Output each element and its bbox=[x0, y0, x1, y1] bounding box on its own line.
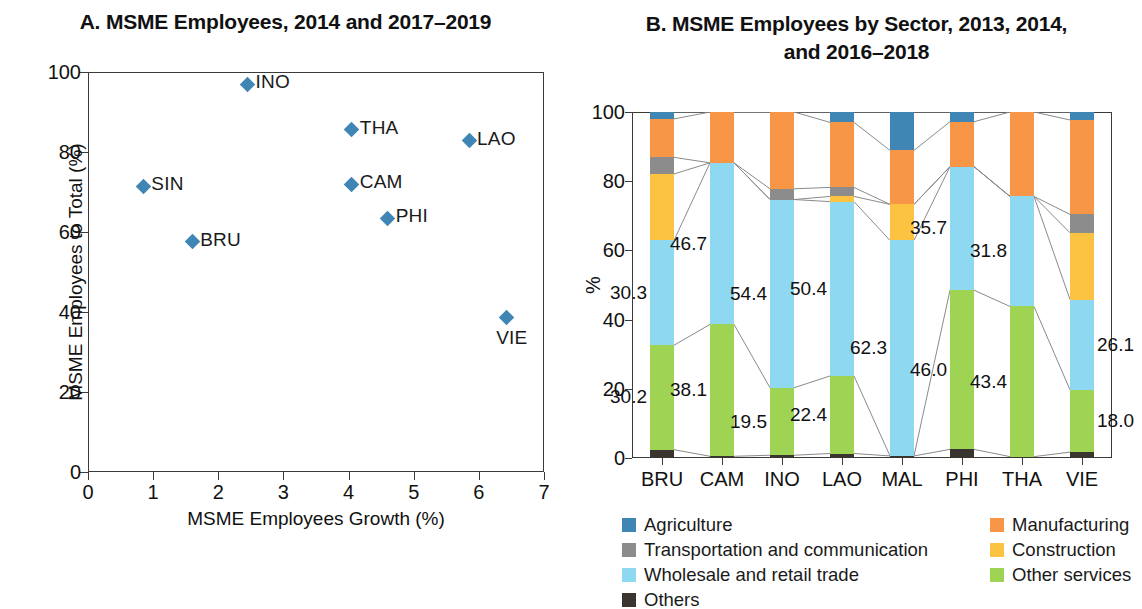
bar-data-label: 38.1 bbox=[670, 379, 707, 401]
bar-column-mal[interactable]: 62.3 bbox=[890, 112, 914, 458]
scatter-point-label: PHI bbox=[396, 205, 428, 227]
bar-x-tick-mark bbox=[1082, 458, 1083, 465]
bar-segment-bru-wholesale-and-retail-trade[interactable] bbox=[650, 240, 674, 345]
panel-b-title: B. MSME Employees by Sector, 2013, 2014,… bbox=[591, 10, 1122, 66]
bar-segment-ino-others[interactable] bbox=[770, 455, 794, 458]
bar-data-label: 46.0 bbox=[910, 359, 947, 381]
scatter-point-label: THA bbox=[360, 117, 399, 139]
bar-column-phi[interactable]: 46.035.7 bbox=[950, 112, 974, 458]
bar-column-lao[interactable]: 22.450.4 bbox=[830, 112, 854, 458]
bar-data-label: 43.4 bbox=[970, 371, 1007, 393]
bar-segment-mal-wholesale-and-retail-trade[interactable] bbox=[890, 240, 914, 456]
bar-segment-phi-others[interactable] bbox=[950, 449, 974, 458]
scatter-x-tick-label: 4 bbox=[343, 481, 354, 504]
scatter-point-label: SIN bbox=[151, 173, 183, 195]
legend-swatch-transportation bbox=[622, 543, 636, 557]
bar-data-label: 50.4 bbox=[790, 278, 827, 300]
scatter-x-tick-mark bbox=[414, 472, 415, 480]
bar-segment-cam-other-services[interactable] bbox=[710, 324, 734, 456]
legend-swatch-wholesale bbox=[622, 568, 636, 582]
bar-segment-phi-manufacturing[interactable] bbox=[950, 122, 974, 167]
bar-data-label: 30.3 bbox=[610, 282, 647, 304]
bar-segment-ino-manufacturing[interactable] bbox=[770, 112, 794, 189]
legend-item-transportation-and-communication[interactable]: Transportation and communication bbox=[622, 537, 928, 562]
bar-x-tick-label-mal: MAL bbox=[881, 468, 922, 491]
bar-column-vie[interactable]: 18.026.1 bbox=[1070, 112, 1094, 458]
legend-item-others[interactable]: Others bbox=[622, 587, 928, 609]
panel-b-title-line-2: and 2016–2018 bbox=[591, 38, 1122, 66]
scatter-y-axis-label: MSME Employees to Total (%) bbox=[65, 143, 87, 400]
bar-x-tick-label-phi: PHI bbox=[945, 468, 978, 491]
legend-item-construction[interactable]: Construction bbox=[990, 537, 1131, 562]
bar-segment-phi-agriculture[interactable] bbox=[950, 112, 974, 122]
bar-segment-bru-others[interactable] bbox=[650, 450, 674, 458]
legend-item-wholesale-and-retail-trade[interactable]: Wholesale and retail trade bbox=[622, 562, 928, 587]
legend-item-label: Wholesale and retail trade bbox=[644, 564, 859, 586]
bar-data-label: 22.4 bbox=[790, 404, 827, 426]
legend-item-label: Agriculture bbox=[644, 514, 732, 536]
bar-segment-vie-agriculture[interactable] bbox=[1070, 112, 1094, 120]
bar-segment-lao-others[interactable] bbox=[830, 454, 854, 458]
bar-x-tick-mark bbox=[782, 458, 783, 465]
scatter-x-tick-label: 0 bbox=[82, 481, 93, 504]
bar-segment-tha-others[interactable] bbox=[1010, 457, 1034, 458]
bar-column-bru[interactable]: 30.230.3 bbox=[650, 112, 674, 458]
bar-x-tick-label-lao: LAO bbox=[822, 468, 862, 491]
bar-segment-cam-others[interactable] bbox=[710, 456, 734, 458]
bar-segment-tha-wholesale-and-retail-trade[interactable] bbox=[1010, 196, 1034, 306]
bar-data-label: 35.7 bbox=[910, 217, 947, 239]
scatter-y-tick-label: 100 bbox=[48, 61, 81, 84]
bar-segment-bru-manufacturing[interactable] bbox=[650, 119, 674, 157]
bar-segment-mal-others[interactable] bbox=[890, 456, 914, 458]
scatter-x-tick-mark bbox=[88, 472, 89, 480]
bar-segment-bru-agriculture[interactable] bbox=[650, 112, 674, 119]
bar-y-tick-mark bbox=[625, 458, 632, 459]
bar-segment-vie-construction[interactable] bbox=[1070, 233, 1094, 300]
bar-segment-tha-manufacturing[interactable] bbox=[1010, 112, 1034, 196]
legend-item-agriculture[interactable]: Agriculture bbox=[622, 512, 928, 537]
scatter-point-label: INO bbox=[256, 71, 290, 93]
legend: AgricultureTransportation and communicat… bbox=[598, 512, 1142, 607]
panel-a-title: A. MSME Employees, 2014 and 2017–2019 bbox=[0, 10, 571, 34]
scatter-x-tick-label: 7 bbox=[538, 481, 549, 504]
bar-segment-vie-wholesale-and-retail-trade[interactable] bbox=[1070, 300, 1094, 390]
legend-swatch-construction bbox=[990, 543, 1004, 557]
bar-segment-vie-manufacturing[interactable] bbox=[1070, 120, 1094, 214]
bar-segment-lao-construction[interactable] bbox=[830, 196, 854, 201]
bar-data-label: 19.5 bbox=[730, 411, 767, 433]
bar-segment-cam-manufacturing[interactable] bbox=[710, 112, 734, 163]
scatter-x-tick-label: 5 bbox=[408, 481, 419, 504]
bar-x-tick-label-cam: CAM bbox=[700, 468, 744, 491]
bar-plot-area: 020406080100 BRUCAMINOLAOMALPHITHAVIE 30… bbox=[632, 112, 1112, 458]
bar-segment-lao-transportation-and-communication[interactable] bbox=[830, 187, 854, 196]
bar-segment-tha-other-services[interactable] bbox=[1010, 306, 1034, 456]
bar-segment-vie-other-services[interactable] bbox=[1070, 390, 1094, 452]
bar-x-tick-mark bbox=[662, 458, 663, 465]
bar-segment-lao-other-services[interactable] bbox=[830, 376, 854, 454]
bar-segment-mal-manufacturing[interactable] bbox=[890, 150, 914, 204]
scatter-y-tick-mark bbox=[80, 472, 88, 473]
legend-item-other-services[interactable]: Other services bbox=[990, 562, 1131, 587]
legend-item-label: Manufacturing bbox=[1012, 514, 1129, 536]
bar-segment-bru-construction[interactable] bbox=[650, 174, 674, 240]
legend-swatch-manufacturing bbox=[990, 518, 1004, 532]
scatter-x-tick-mark bbox=[479, 472, 480, 480]
bar-segment-vie-others[interactable] bbox=[1070, 452, 1094, 458]
bar-segment-mal-agriculture[interactable] bbox=[890, 112, 914, 150]
bar-segment-ino-transportation-and-communication[interactable] bbox=[770, 189, 794, 200]
scatter-plot-area: 020406080100 01234567 SINBRUINOTHACAMPHI… bbox=[88, 72, 544, 472]
bar-segment-vie-transportation-and-communication[interactable] bbox=[1070, 214, 1094, 232]
scatter-x-tick-label: 1 bbox=[148, 481, 159, 504]
bar-y-tick-mark bbox=[625, 250, 632, 251]
bar-segment-lao-manufacturing[interactable] bbox=[830, 122, 854, 187]
scatter-point-label: VIE bbox=[496, 327, 527, 349]
panel-a-scatter: A. MSME Employees, 2014 and 2017–2019 02… bbox=[0, 0, 571, 609]
bar-segment-lao-agriculture[interactable] bbox=[830, 112, 854, 122]
bar-segment-bru-transportation-and-communication[interactable] bbox=[650, 157, 674, 174]
legend-item-manufacturing[interactable]: Manufacturing bbox=[990, 512, 1131, 537]
bar-x-tick-mark bbox=[962, 458, 963, 465]
bar-column-tha[interactable]: 43.431.8 bbox=[1010, 112, 1034, 458]
legend-swatch-agriculture bbox=[622, 518, 636, 532]
bar-x-tick-label-bru: BRU bbox=[641, 468, 683, 491]
bar-segment-phi-wholesale-and-retail-trade[interactable] bbox=[950, 167, 974, 291]
